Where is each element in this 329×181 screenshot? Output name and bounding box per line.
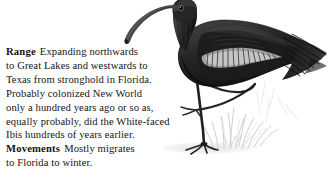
heading-movements: Movements — [6, 143, 60, 154]
bird-eye — [179, 6, 183, 10]
glossy-ibis-illustration — [118, 0, 329, 181]
bird-bill — [125, 5, 175, 44]
heading-range: Range — [6, 46, 36, 57]
standing-ankle — [201, 142, 208, 146]
field-guide-page: RangeExpanding northwards to Great Lakes… — [0, 0, 329, 181]
bird-eye-glint — [180, 7, 181, 8]
bill-ridge — [127, 6, 173, 41]
